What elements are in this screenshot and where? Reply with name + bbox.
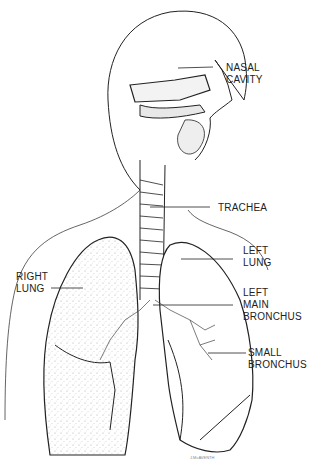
label-line: MAIN bbox=[243, 299, 302, 311]
label-line: TRACHEA bbox=[218, 202, 267, 214]
left-lung-drawing bbox=[159, 242, 253, 451]
label-line: CAVITY bbox=[226, 74, 263, 86]
artist-signature: J.McAVENTH bbox=[190, 455, 214, 460]
label-line: SMALL bbox=[248, 347, 307, 359]
label-nasal-cavity: NASAL CAVITY bbox=[226, 62, 263, 86]
label-right-lung: RIGHT LUNG bbox=[16, 271, 48, 295]
label-line: LUNG bbox=[243, 257, 272, 269]
label-left-main-bronchus: LEFT MAIN BRONCHUS bbox=[243, 287, 302, 323]
anatomy-drawing bbox=[0, 0, 311, 464]
label-line: LUNG bbox=[16, 283, 48, 295]
label-small-bronchus: SMALL BRONCHUS bbox=[248, 347, 307, 371]
right-lung-drawing bbox=[44, 237, 138, 455]
respiratory-diagram: NASAL CAVITY TRACHEA LEFT LUNG RIGHT LUN… bbox=[0, 0, 311, 464]
label-trachea: TRACHEA bbox=[218, 202, 267, 214]
label-line: LEFT bbox=[243, 287, 302, 299]
nasal-cavity-drawing bbox=[130, 75, 210, 154]
label-line: BRONCHUS bbox=[243, 311, 302, 323]
label-line: NASAL bbox=[226, 62, 263, 74]
label-line: LEFT bbox=[243, 245, 272, 257]
label-line: BRONCHUS bbox=[248, 359, 307, 371]
label-line: RIGHT bbox=[16, 271, 48, 283]
label-left-lung: LEFT LUNG bbox=[243, 245, 272, 269]
